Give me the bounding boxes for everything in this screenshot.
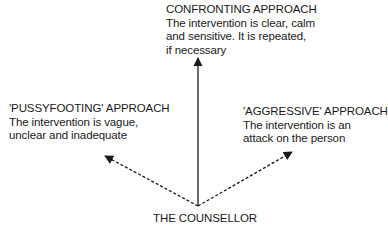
confronting-approach-block: CONFRONTING APPROACH The intervention is…	[166, 3, 317, 57]
arrow-to-aggressive	[198, 152, 292, 206]
confronting-desc-line3: if necessary	[166, 44, 317, 58]
pussyfooting-desc-line1: The intervention is vague,	[9, 116, 170, 130]
confronting-title: CONFRONTING APPROACH	[166, 3, 317, 17]
pussyfooting-title: 'PUSSYFOOTING' APPROACH	[9, 102, 170, 116]
confronting-desc-line2: and sensitive. It is repeated,	[166, 30, 317, 44]
arrow-to-pussyfooting	[105, 156, 198, 206]
pussyfooting-approach-block: 'PUSSYFOOTING' APPROACH The intervention…	[9, 102, 170, 143]
counsellor-label: THE COUNSELLOR	[153, 212, 257, 226]
aggressive-desc-line2: attack on the person	[243, 132, 388, 146]
aggressive-title: 'AGGRESSIVE' APPROACH	[243, 105, 388, 119]
aggressive-desc-line1: The intervention is an	[243, 119, 388, 133]
aggressive-approach-block: 'AGGRESSIVE' APPROACH The intervention i…	[243, 105, 388, 146]
confronting-desc-line1: The intervention is clear, calm	[166, 17, 317, 31]
pussyfooting-desc-line2: unclear and inadequate	[9, 129, 170, 143]
